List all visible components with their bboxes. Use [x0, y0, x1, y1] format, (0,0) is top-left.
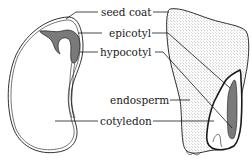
- bean-epicotyl: [40, 30, 80, 63]
- label-endosperm: endosperm: [109, 95, 170, 106]
- bean-seed: [8, 17, 83, 153]
- label-seed-coat: seed coat: [100, 7, 153, 18]
- corn-seed: [167, 9, 249, 155]
- leader-seed-coat-left: [66, 12, 98, 19]
- label-cotyledon: cotyledon: [99, 116, 153, 127]
- label-hypocotyl: hypocotyl: [99, 47, 152, 58]
- label-epicotyl: epicotyl: [108, 28, 152, 39]
- seed-diagram: [0, 0, 252, 160]
